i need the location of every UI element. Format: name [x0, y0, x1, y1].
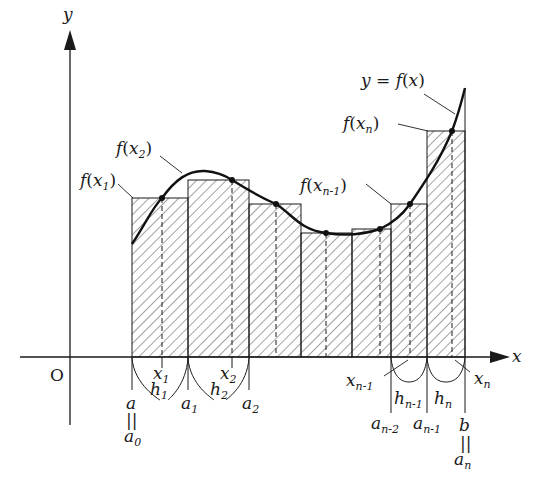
riemann-rectangle — [352, 229, 391, 357]
label-hn: hn — [434, 388, 452, 411]
riemann-rectangle — [132, 198, 188, 357]
sample-point-dot — [377, 226, 383, 232]
label-f-xn-minus-1: f(xn-1) — [298, 175, 347, 198]
label-a0: a0 — [124, 426, 141, 449]
origin-label: O — [50, 365, 64, 385]
label-b: b — [459, 415, 470, 435]
label-a2: a2 — [242, 393, 259, 416]
riemann-rectangle — [249, 204, 301, 357]
sample-point-dot — [407, 201, 413, 207]
label-f-x1: f(x1) — [78, 170, 116, 193]
x-axis-arrow-icon — [490, 351, 510, 363]
riemann-rectangle — [391, 204, 427, 357]
label-an-minus-1: an-1 — [413, 413, 441, 436]
label-a1: a1 — [181, 393, 198, 416]
sample-point-dot — [159, 195, 165, 201]
sample-point-dot — [229, 177, 235, 183]
label-xn: xn — [474, 368, 491, 391]
riemann-sum-diagram: x y O f(x1) f(x2) — [0, 0, 541, 483]
y-axis-arrow-icon — [64, 30, 76, 50]
y-axis-label: y — [62, 4, 73, 24]
label-x2: x2 — [220, 363, 237, 386]
riemann-rectangle — [188, 180, 249, 357]
sample-point-dot — [449, 128, 455, 134]
label-f-xn: f(xn) — [341, 113, 379, 136]
x-axis-label: x — [512, 346, 522, 366]
riemann-rectangles — [132, 131, 465, 357]
label-an-minus-2: an-2 — [371, 413, 399, 436]
label-f-x2: f(x2) — [114, 138, 152, 161]
label-hn-minus-1: hn-1 — [394, 388, 423, 411]
sample-point-dot — [273, 201, 279, 207]
label-xn-minus-1: xn-1 — [346, 370, 373, 393]
sample-point-dot — [323, 230, 329, 236]
label-curve: y = f(x) — [360, 70, 425, 90]
riemann-rectangle — [427, 131, 465, 357]
